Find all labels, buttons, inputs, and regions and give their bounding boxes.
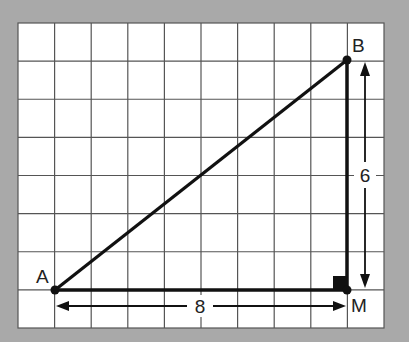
point-b <box>343 56 352 65</box>
point-m <box>343 286 352 295</box>
label-a: A <box>36 266 49 287</box>
triangle-diagram: A B M 8 6 <box>0 0 409 342</box>
vertical-length-label: 6 <box>360 165 371 186</box>
label-b: B <box>352 35 365 56</box>
point-a <box>51 286 60 295</box>
label-m: M <box>351 295 367 316</box>
horizontal-length-label: 8 <box>195 296 206 317</box>
